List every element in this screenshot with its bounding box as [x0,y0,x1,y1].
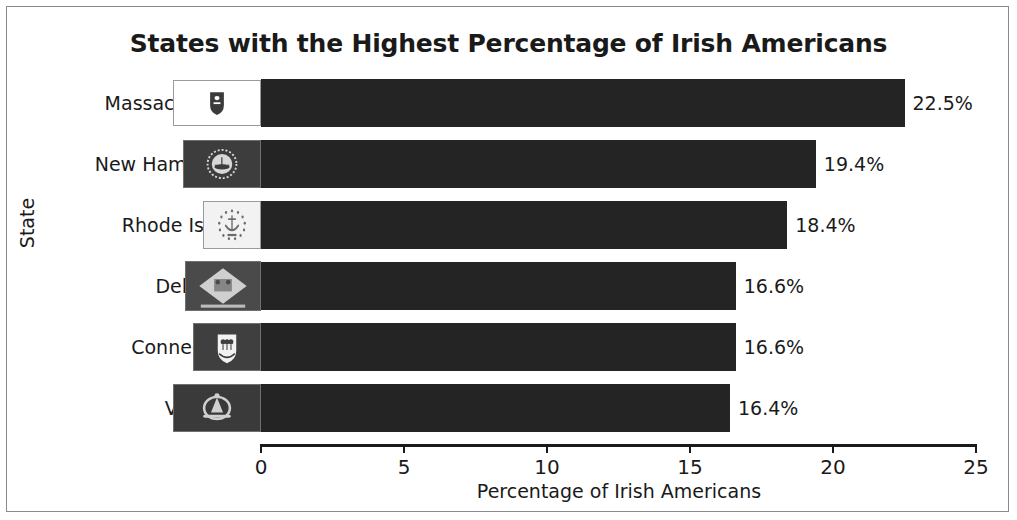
bar-value-label: 16.6% [744,336,804,358]
flag-vermont-icon [173,384,261,432]
x-tick-label: 10 [534,455,559,479]
x-tick-label: 15 [677,455,702,479]
x-tick-label: 0 [255,455,268,479]
bar-row: Vermont16.4% [7,384,1010,432]
x-tick [975,444,977,453]
x-tick-label: 5 [398,455,411,479]
flag-new-hampshire-icon [183,140,261,188]
flag-massachusetts-icon [173,80,261,126]
bar-row: Rhode Island18.4% [7,201,1010,249]
x-tick [832,444,834,453]
bar-row: New Hampshire19.4% [7,140,1010,188]
bar [261,262,736,310]
bar-value-label: 18.4% [795,214,855,236]
flag-delaware-icon [185,261,261,311]
bar-value-label: 16.6% [744,275,804,297]
bar-value-label: 19.4% [824,153,884,175]
bar [261,323,736,371]
bar-row: Massachusetts22.5% [7,79,1010,127]
bar [261,140,816,188]
flag-connecticut-icon [193,323,261,371]
chart-frame: States with the Highest Percentage of Ir… [6,6,1009,512]
bar-row: Connecticut16.6% [7,323,1010,371]
bar [261,79,905,127]
bar [261,201,787,249]
x-tick [546,444,548,453]
bar [261,384,730,432]
x-axis-line [261,444,977,447]
bar-value-label: 22.5% [913,92,973,114]
bar-value-label: 16.4% [738,397,798,419]
x-tick [403,444,405,453]
plot-area: Massachusetts22.5%New Hampshire19.4%Rhod… [7,7,1010,513]
flag-rhode-island-icon [203,201,261,249]
x-tick [689,444,691,453]
x-tick [260,444,262,453]
x-axis-label: Percentage of Irish Americans [261,480,977,502]
x-tick-label: 25 [963,455,988,479]
x-tick-label: 20 [820,455,845,479]
bar-chart: States with the Highest Percentage of Ir… [7,7,1010,513]
bar-row: Delaware16.6% [7,262,1010,310]
